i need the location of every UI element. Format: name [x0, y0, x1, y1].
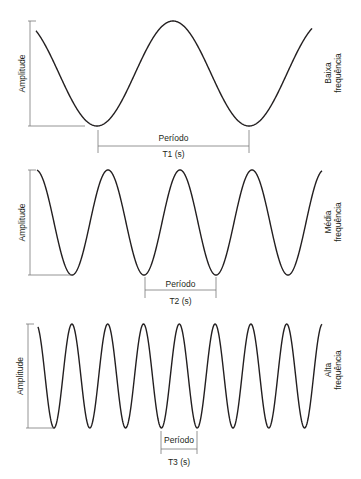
frequency-diagram: Amplitude Período T1 (s) Baixa frequênci… — [0, 0, 361, 479]
frequency-label-line1: Baixa — [323, 62, 333, 84]
frequency-label: Alta frequência — [323, 350, 343, 390]
frequency-label-line2: frequência — [333, 53, 343, 93]
panel-high-frequency: Amplitude Período T3 (s) Alta frequência — [15, 324, 343, 467]
period-symbol: T1 (s) — [162, 149, 184, 159]
frequency-label-line1: Alta — [323, 362, 333, 377]
amplitude-bar — [28, 21, 85, 126]
period-label: Período — [164, 435, 194, 445]
frequency-label: Baixa frequência — [323, 53, 343, 93]
frequency-label-line2: frequência — [333, 202, 343, 242]
panel-medium-frequency: Amplitude Período T2 (s) Média frequênci… — [17, 170, 343, 306]
amplitude-label: Amplitude — [17, 203, 27, 241]
frequency-label-line2: frequência — [333, 350, 343, 390]
period-symbol: T2 (s) — [169, 296, 191, 306]
frequency-label-line1: Média — [323, 210, 333, 233]
amplitude-label: Amplitude — [15, 357, 25, 395]
period-symbol: T3 (s) — [168, 457, 190, 467]
amplitude-bar — [28, 170, 72, 275]
sine-wave-high — [38, 324, 322, 428]
panel-low-frequency: Amplitude Período T1 (s) Baixa frequênci… — [17, 21, 343, 159]
period-label: Período — [166, 279, 196, 289]
sine-wave-medium — [37, 170, 322, 275]
period-label: Período — [159, 133, 189, 143]
sine-wave-low — [36, 21, 312, 126]
frequency-label: Média frequência — [323, 202, 343, 242]
amplitude-label: Amplitude — [17, 54, 27, 92]
